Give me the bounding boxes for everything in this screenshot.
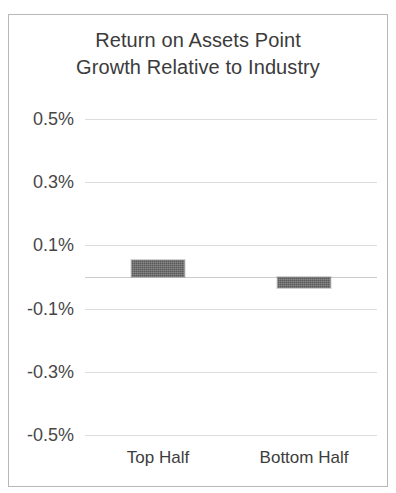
- x-axis-labels: Top Half Bottom Half: [85, 447, 377, 473]
- y-axis-label-1: 0.3%: [33, 173, 74, 191]
- chart-container: Return on Assets Point Growth Relative t…: [8, 14, 388, 487]
- chart-title-line-1: Return on Assets Point: [9, 27, 387, 54]
- y-axis-label-4: -0.3%: [27, 363, 74, 381]
- bar-bottom-half[interactable]: [278, 277, 331, 288]
- plot-area: 0.5% 0.3% 0.1% -0.1% -0.3% -0.5%: [85, 119, 377, 435]
- x-axis-label-bottom-half: Bottom Half: [260, 447, 349, 469]
- chart-title-line-2: Growth Relative to Industry: [9, 54, 387, 81]
- y-axis-label-0: 0.5%: [33, 110, 74, 128]
- y-axis-label-5: -0.5%: [27, 426, 74, 444]
- bar-slot-top-half: [85, 119, 231, 435]
- x-axis-label-top-half: Top Half: [127, 447, 189, 469]
- bar-slot-bottom-half: [231, 119, 377, 435]
- bar-series: [85, 119, 377, 435]
- y-axis-label-2: 0.1%: [33, 236, 74, 254]
- gridline-5: -0.5%: [85, 435, 377, 436]
- chart-title: Return on Assets Point Growth Relative t…: [9, 27, 387, 81]
- bar-top-half[interactable]: [132, 260, 185, 277]
- y-axis-label-3: -0.1%: [27, 300, 74, 318]
